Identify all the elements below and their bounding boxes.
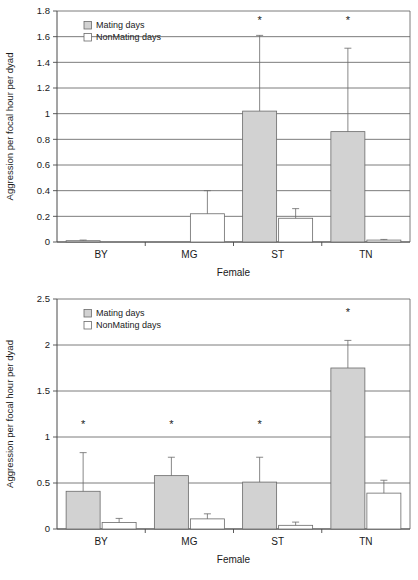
errorbar-bottom-TN-mating — [344, 340, 351, 368]
y-tick-label-5: 2.5 — [37, 293, 50, 304]
legend-label-nonmating: NonMating days — [96, 320, 162, 330]
errorbar-bottom-ST-nonmating — [292, 522, 299, 525]
significance-star-top-TN: * — [346, 14, 351, 26]
bar-top-ST-mating — [243, 111, 277, 242]
y-tick-label-3: 0.6 — [37, 159, 50, 170]
bar-bottom-MG-mating — [154, 476, 188, 529]
legend-label-mating: Mating days — [96, 20, 145, 30]
bar-bottom-ST-mating — [243, 482, 277, 529]
bar-top-TN-mating — [331, 132, 365, 242]
y-tick-label-0: 0 — [45, 236, 50, 247]
x-category-label-BY: BY — [94, 249, 108, 260]
x-axis-title: Female — [217, 267, 251, 278]
y-axis-title: Aggression per focal hour per dyad — [4, 340, 15, 488]
y-axis-title: Aggression per focal hour per dyad — [4, 53, 15, 201]
y-tick-label-8: 1.6 — [37, 31, 50, 42]
chart-panel-top: 00.20.40.60.811.21.41.61.8BYMGSTTN**Fema… — [0, 0, 418, 290]
y-tick-label-4: 0.8 — [37, 134, 50, 145]
x-category-label-ST: ST — [271, 536, 284, 547]
y-tick-label-6: 1.2 — [37, 82, 50, 93]
errorbar-top-ST-mating — [256, 35, 263, 111]
bar-chart-top: 00.20.40.60.811.21.41.61.8BYMGSTTN**Fema… — [0, 0, 418, 290]
legend-swatch-mating — [84, 22, 92, 30]
errorbar-top-ST-nonmating — [292, 209, 299, 219]
x-category-label-TN: TN — [359, 536, 372, 547]
legend-top: Mating daysNonMating days — [84, 20, 162, 42]
bar-bottom-BY-mating — [66, 491, 100, 529]
bar-bottom-BY-nonmating — [102, 523, 136, 529]
x-category-label-MG: MG — [181, 536, 197, 547]
significance-star-bottom-TN: * — [346, 306, 351, 318]
bar-chart-bottom: 00.511.522.5BYMGSTTN****FemaleAggression… — [0, 290, 418, 580]
errorbar-bottom-BY-nonmating — [116, 518, 123, 522]
legend-label-nonmating: NonMating days — [96, 32, 162, 42]
errorbar-bottom-TN-nonmating — [380, 480, 387, 493]
errorbar-bottom-MG-nonmating — [204, 514, 211, 519]
legend-swatch-nonmating — [84, 34, 92, 42]
bar-bottom-TN-mating — [331, 368, 365, 529]
y-tick-label-0: 0 — [45, 523, 50, 534]
bar-bottom-TN-nonmating — [367, 493, 401, 529]
y-tick-label-9: 1.8 — [37, 5, 50, 16]
bar-bottom-ST-nonmating — [279, 525, 313, 529]
bar-top-ST-nonmating — [279, 218, 313, 242]
legend-label-mating: Mating days — [96, 308, 145, 318]
bar-top-TN-nonmating — [367, 240, 401, 242]
y-tick-label-3: 1.5 — [37, 385, 50, 396]
errorbar-bottom-BY-mating — [80, 453, 87, 492]
chart-panel-bottom: 00.511.522.5BYMGSTTN****FemaleAggression… — [0, 290, 418, 580]
x-category-label-TN: TN — [359, 249, 372, 260]
y-tick-label-7: 1.4 — [37, 57, 50, 68]
y-tick-label-4: 2 — [45, 339, 50, 350]
significance-star-bottom-MG: * — [169, 418, 174, 430]
significance-star-bottom-ST: * — [257, 418, 262, 430]
legend-swatch-mating — [84, 310, 92, 318]
errorbar-top-MG-nonmating — [204, 191, 211, 214]
y-tick-label-2: 0.4 — [37, 185, 50, 196]
x-category-label-ST: ST — [271, 249, 284, 260]
significance-star-top-ST: * — [257, 14, 262, 26]
x-category-label-MG: MG — [181, 249, 197, 260]
errorbar-top-TN-mating — [344, 48, 351, 131]
bar-top-MG-nonmating — [190, 214, 224, 242]
bar-top-BY-mating — [66, 241, 100, 242]
x-axis-title: Female — [217, 554, 251, 565]
y-tick-label-5: 1 — [45, 108, 50, 119]
legend-swatch-nonmating — [84, 322, 92, 330]
legend-bottom: Mating daysNonMating days — [84, 308, 162, 330]
bar-bottom-MG-nonmating — [190, 519, 224, 529]
y-tick-label-1: 0.5 — [37, 477, 50, 488]
x-category-label-BY: BY — [94, 536, 108, 547]
y-tick-label-1: 0.2 — [37, 211, 50, 222]
errorbar-bottom-ST-mating — [256, 457, 263, 482]
errorbar-bottom-MG-mating — [168, 457, 175, 475]
significance-star-bottom-BY: * — [81, 418, 86, 430]
y-tick-label-2: 1 — [45, 431, 50, 442]
